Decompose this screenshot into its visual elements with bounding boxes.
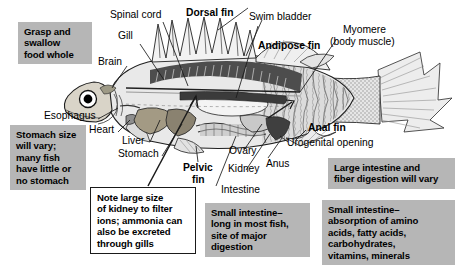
label-heart: Heart bbox=[89, 124, 114, 136]
callout-line: fiber digestion will vary bbox=[334, 173, 449, 184]
label-kidney: Kidney bbox=[228, 163, 259, 175]
callout-line: long in most fish, bbox=[211, 218, 304, 229]
fish-anatomy-figure: Grasp and swallow food whole Stomach siz… bbox=[0, 0, 461, 278]
callout-line: site of major bbox=[211, 230, 304, 241]
label-anus: Anus bbox=[266, 158, 289, 170]
callout-line: Stomach size bbox=[16, 129, 80, 140]
label-anal-fin: Anal fin bbox=[308, 122, 346, 134]
callout-line: vitamins, minerals bbox=[328, 250, 449, 261]
callout-line: swallow bbox=[24, 37, 86, 48]
callout-line: through gills bbox=[97, 238, 189, 249]
callout-small-intestine-digestion: Small intestine– long in most fish, site… bbox=[205, 203, 310, 257]
label-brain: Brain bbox=[98, 56, 122, 68]
callout-line: also be excreted bbox=[97, 226, 189, 237]
callout-large-intestine: Large intestine and fiber digestion will… bbox=[328, 158, 455, 189]
label-esophagus: Esophagus bbox=[44, 110, 96, 122]
callout-line: Grasp and bbox=[24, 26, 86, 37]
label-myomere: Myomere bbox=[343, 24, 386, 36]
label-intestine: Intestine bbox=[221, 184, 260, 196]
label-ovary: Ovary bbox=[229, 145, 256, 157]
label-stomach: Stomach bbox=[118, 148, 159, 160]
callout-line: ions; ammonia can bbox=[97, 215, 189, 226]
callout-line: have little or bbox=[16, 163, 80, 174]
callout-grasp-swallow: Grasp and swallow food whole bbox=[18, 22, 92, 64]
label-dorsal-fin: Dorsal fin bbox=[186, 7, 234, 19]
label-liver: Liver bbox=[122, 135, 144, 147]
caudal-fin bbox=[378, 52, 452, 132]
label-pelvic-fin: Pelvic bbox=[183, 162, 213, 174]
callout-line: carbohydrates, bbox=[328, 238, 449, 249]
label-pelvic-fin-sub: fin bbox=[192, 174, 205, 186]
callout-line: food whole bbox=[24, 49, 86, 60]
label-swim-bladder: Swim bladder bbox=[249, 11, 311, 23]
callout-line: Small intestine– bbox=[328, 204, 449, 215]
callout-line: Small intestine– bbox=[211, 207, 304, 218]
callout-line: acids, fatty acids, bbox=[328, 227, 449, 238]
dorsal-fin-art bbox=[152, 17, 256, 62]
callout-line: absorption of amino bbox=[328, 215, 449, 226]
label-myomere-sub: (body muscle) bbox=[330, 36, 395, 48]
callout-line: no stomach bbox=[16, 175, 80, 186]
callout-line: will vary; bbox=[16, 140, 80, 151]
callout-kidney-note: Note large size of kidney to filter ions… bbox=[90, 187, 196, 254]
callout-line: many fish bbox=[16, 152, 80, 163]
callout-line: of kidney to filter bbox=[97, 203, 189, 214]
callout-line: Large intestine and bbox=[334, 162, 449, 173]
label-andipose-fin: Andipose fin bbox=[258, 40, 320, 52]
callout-line: digestion bbox=[211, 241, 304, 252]
label-urogenital-opening: Urogenital opening bbox=[287, 137, 373, 149]
callout-stomach-size: Stomach size will vary; many fish have l… bbox=[10, 125, 86, 190]
label-gill: Gill bbox=[118, 30, 133, 42]
callout-line: Note large size bbox=[97, 192, 189, 203]
callout-small-intestine-absorption: Small intestine– absorption of amino aci… bbox=[322, 200, 455, 265]
label-spinal-cord: Spinal cord bbox=[110, 9, 162, 21]
